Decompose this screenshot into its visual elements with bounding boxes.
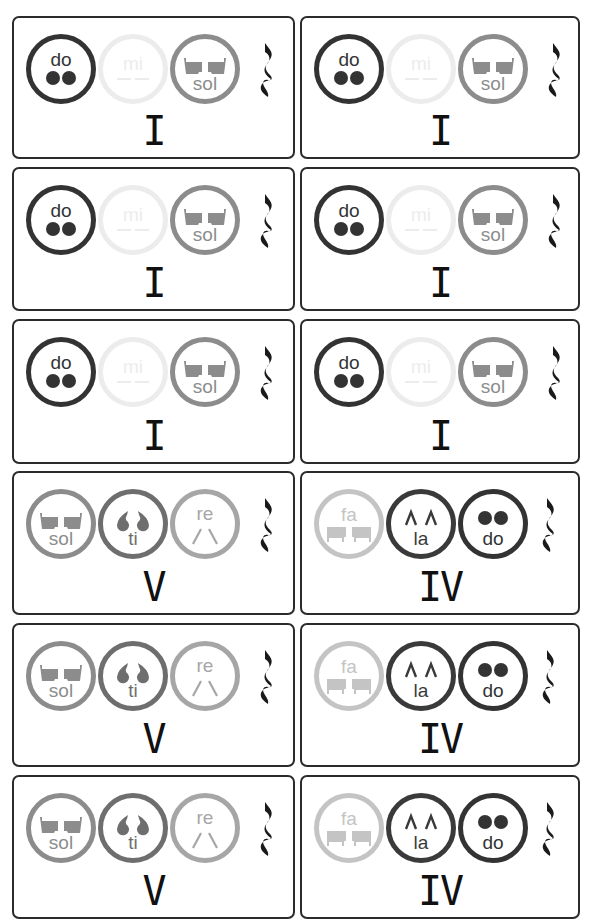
fa-solfege-icon: fa — [314, 641, 384, 711]
mi-solfege-icon: mi — [98, 337, 168, 407]
svg-text:mi: mi — [411, 53, 431, 74]
svg-text:do: do — [50, 352, 71, 373]
mi-solfege-icon: mi — [98, 34, 168, 104]
roman-numeral-label: IV — [302, 567, 578, 607]
roman-numeral-label: I — [14, 263, 293, 303]
svg-text:la: la — [414, 680, 429, 701]
svg-text:do: do — [338, 49, 359, 70]
svg-text:ti: ti — [128, 680, 138, 701]
svg-text:mi: mi — [123, 204, 143, 225]
roman-numeral-label: I — [302, 416, 578, 456]
mi-solfege-icon: mi — [98, 185, 168, 255]
sol-solfege-icon: sol — [170, 337, 240, 407]
svg-text:ti: ti — [128, 832, 138, 853]
roman-numeral-label: V — [14, 871, 293, 911]
mi-solfege-icon: mi — [386, 185, 456, 255]
mi-solfege-icon: mi — [386, 34, 456, 104]
roman-numeral-label: I — [14, 416, 293, 456]
chord-card: soltireV — [12, 471, 295, 615]
roman-numeral-label: I — [14, 111, 293, 151]
sol-solfege-icon: sol — [458, 337, 528, 407]
svg-text:sol: sol — [481, 376, 505, 397]
svg-text:do: do — [482, 680, 503, 701]
quarter-rest-icon — [256, 193, 278, 249]
svg-text:la: la — [414, 832, 429, 853]
do-solfege-icon: do — [314, 34, 384, 104]
quarter-rest-icon — [544, 42, 566, 98]
svg-text:re: re — [197, 503, 214, 524]
la-solfege-icon: la — [386, 641, 456, 711]
svg-text:do: do — [338, 200, 359, 221]
svg-text:sol: sol — [49, 832, 73, 853]
svg-text:mi: mi — [123, 53, 143, 74]
chord-card: soltireV — [12, 623, 295, 767]
chord-card: faladoIV — [300, 471, 580, 615]
ti-solfege-icon: ti — [98, 489, 168, 559]
chord-card: domisolI — [300, 167, 580, 311]
svg-text:do: do — [482, 832, 503, 853]
quarter-rest-icon — [538, 801, 560, 857]
sol-solfege-icon: sol — [170, 185, 240, 255]
svg-text:sol: sol — [49, 528, 73, 549]
svg-text:do: do — [50, 200, 71, 221]
ti-solfege-icon: ti — [98, 793, 168, 863]
do-solfege-icon: do — [26, 185, 96, 255]
svg-text:fa: fa — [341, 656, 357, 677]
do-solfege-icon: do — [314, 337, 384, 407]
la-solfege-icon: la — [386, 793, 456, 863]
chord-card: faladoIV — [300, 775, 580, 919]
svg-text:sol: sol — [193, 376, 217, 397]
svg-text:mi: mi — [123, 356, 143, 377]
fa-solfege-icon: fa — [314, 793, 384, 863]
quarter-rest-icon — [256, 801, 278, 857]
do-solfege-icon: do — [458, 793, 528, 863]
mi-solfege-icon: mi — [386, 337, 456, 407]
chord-card: domisolI — [12, 167, 295, 311]
sol-solfege-icon: sol — [170, 34, 240, 104]
chord-card: soltireV — [12, 775, 295, 919]
svg-text:sol: sol — [193, 73, 217, 94]
quarter-rest-icon — [544, 345, 566, 401]
svg-text:fa: fa — [341, 808, 357, 829]
svg-text:sol: sol — [481, 224, 505, 245]
svg-text:do: do — [482, 528, 503, 549]
chord-card: domisolI — [12, 16, 295, 159]
quarter-rest-icon — [538, 649, 560, 705]
do-solfege-icon: do — [26, 337, 96, 407]
svg-text:do: do — [338, 352, 359, 373]
sol-solfege-icon: sol — [26, 641, 96, 711]
svg-text:la: la — [414, 528, 429, 549]
svg-text:sol: sol — [193, 224, 217, 245]
do-solfege-icon: do — [458, 641, 528, 711]
quarter-rest-icon — [256, 345, 278, 401]
roman-numeral-label: IV — [302, 719, 578, 759]
sol-solfege-icon: sol — [26, 793, 96, 863]
re-solfege-icon: re — [170, 793, 240, 863]
svg-text:sol: sol — [49, 680, 73, 701]
svg-text:do: do — [50, 49, 71, 70]
quarter-rest-icon — [256, 649, 278, 705]
roman-numeral-label: I — [302, 263, 578, 303]
quarter-rest-icon — [256, 497, 278, 553]
roman-numeral-label: I — [302, 111, 578, 151]
quarter-rest-icon — [538, 497, 560, 553]
roman-numeral-label: V — [14, 719, 293, 759]
svg-text:re: re — [197, 655, 214, 676]
sol-solfege-icon: sol — [458, 34, 528, 104]
do-solfege-icon: do — [314, 185, 384, 255]
do-solfege-icon: do — [458, 489, 528, 559]
svg-text:sol: sol — [481, 73, 505, 94]
svg-text:ti: ti — [128, 528, 138, 549]
sol-solfege-icon: sol — [458, 185, 528, 255]
svg-text:re: re — [197, 807, 214, 828]
chord-card: domisolI — [12, 319, 295, 464]
fa-solfege-icon: fa — [314, 489, 384, 559]
roman-numeral-label: V — [14, 567, 293, 607]
re-solfege-icon: re — [170, 641, 240, 711]
quarter-rest-icon — [544, 193, 566, 249]
la-solfege-icon: la — [386, 489, 456, 559]
chord-card: domisolI — [300, 319, 580, 464]
sol-solfege-icon: sol — [26, 489, 96, 559]
chord-card: domisolI — [300, 16, 580, 159]
re-solfege-icon: re — [170, 489, 240, 559]
